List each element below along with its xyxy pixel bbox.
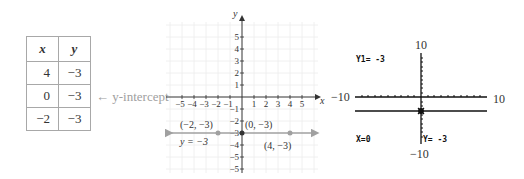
y-tick: −2 — [229, 116, 239, 126]
x-axis-label: x — [319, 95, 325, 106]
point-label: (0, −3) — [245, 119, 272, 131]
point-neg2-neg3 — [216, 131, 221, 136]
x-tick: −2 — [211, 99, 221, 109]
point-0-neg3 — [240, 131, 245, 136]
y-axis-label: y — [232, 8, 238, 19]
x-tick: −4 — [187, 99, 197, 109]
y-tick: 4 — [235, 44, 240, 54]
calc-xmax-label: 10 — [493, 92, 505, 107]
calculator-graph — [355, 53, 487, 144]
y-tick: 2 — [235, 68, 240, 78]
y-tick: −4 — [229, 140, 239, 150]
point-label: (−2, −3) — [180, 119, 213, 131]
calc-xmin-label: −10 — [331, 90, 350, 105]
y-tick: −1 — [229, 104, 239, 114]
x-tick: −5 — [175, 99, 185, 109]
y-tick: 3 — [235, 56, 240, 66]
x-tick: 3 — [276, 99, 281, 109]
trace-cursor-icon — [418, 108, 424, 114]
calc-y-value: Y= -3 — [423, 135, 447, 144]
y-tick: 5 — [235, 32, 240, 42]
y-tick: −5 — [229, 152, 239, 162]
y-tick: −5 — [229, 164, 239, 174]
calc-x-value: X=0 — [356, 135, 370, 144]
x-tick: 5 — [300, 99, 305, 109]
x-tick: 2 — [264, 99, 269, 109]
line-equation-label: y = −3 — [179, 136, 208, 147]
x-tick: 1 — [252, 99, 257, 109]
y-tick: 1 — [235, 80, 240, 90]
point-label: (4, −3) — [264, 140, 291, 152]
point-4-neg3 — [288, 131, 293, 136]
coordinate-graph: −5 −4 −3 −2 −1 1 2 3 4 5 5 4 3 2 1 −1 −2… — [0, 0, 524, 179]
calc-ymax-label: 10 — [415, 38, 427, 53]
x-tick: 4 — [288, 99, 293, 109]
calc-function-label: Y1= -3 — [356, 55, 385, 64]
calc-ymin-label: −10 — [410, 147, 429, 162]
x-tick: −3 — [199, 99, 209, 109]
